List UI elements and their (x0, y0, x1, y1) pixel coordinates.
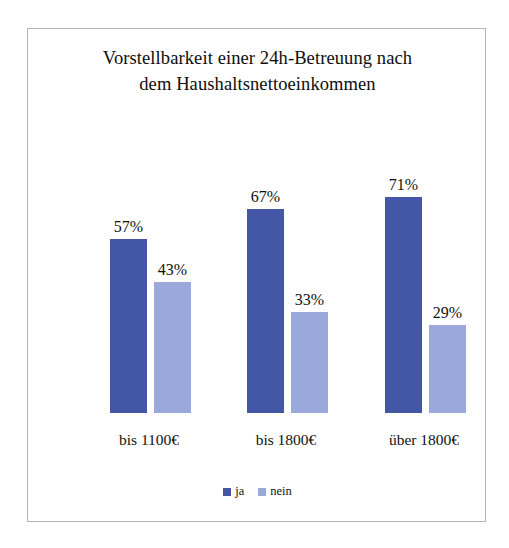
bar-nein-3[interactable]: 29% (429, 325, 466, 413)
bar-value-label: 67% (247, 187, 284, 207)
bar-ja-2[interactable]: 67% (247, 209, 284, 413)
bar-nein-1[interactable]: 43% (154, 282, 191, 413)
category-label-2: bis 1800€ (226, 431, 346, 449)
chart-legend: ja nein (28, 484, 487, 499)
bar-ja-3[interactable]: 71% (385, 197, 422, 413)
legend-label-ja: ja (235, 484, 244, 499)
plot-area: 57% 43% bis 1100€ 67% 33% bis 1800€ 71% … (28, 29, 487, 523)
bar-value-label: 71% (385, 175, 422, 195)
bar-ja-1[interactable]: 57% (110, 239, 147, 413)
bar-value-label: 43% (154, 260, 191, 280)
legend-swatch-icon (258, 488, 266, 496)
bar-value-label: 57% (110, 217, 147, 237)
legend-item-ja[interactable]: ja (223, 484, 244, 499)
scan-artifact (88, 0, 298, 12)
bar-value-label: 33% (291, 290, 328, 310)
bar-value-label: 29% (429, 303, 466, 323)
legend-item-nein[interactable]: nein (258, 484, 292, 499)
chart-frame: Vorstellbarkeit einer 24h-Betreuung nach… (27, 28, 486, 522)
legend-swatch-icon (223, 488, 231, 496)
category-label-1: bis 1100€ (89, 431, 209, 449)
legend-label-nein: nein (270, 484, 292, 499)
bar-nein-2[interactable]: 33% (291, 312, 328, 413)
category-label-3: über 1800€ (364, 431, 484, 449)
